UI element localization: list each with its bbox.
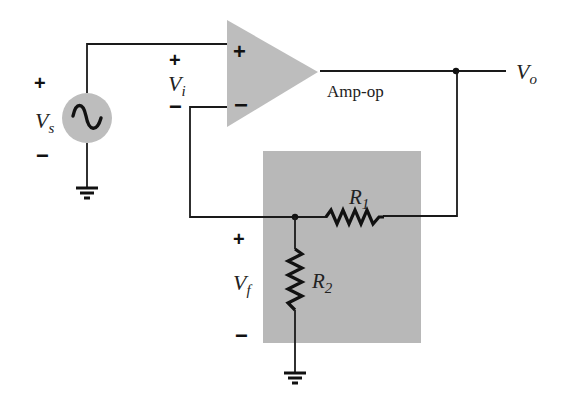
ac-source — [62, 93, 112, 143]
vs-label: Vs — [35, 108, 54, 136]
opamp-label: Amp-op — [327, 82, 384, 101]
feedback-network-box — [263, 151, 421, 343]
vf-minus: − — [235, 323, 248, 348]
vf-label: Vf — [233, 270, 252, 298]
vi-plus: + — [169, 49, 181, 71]
ground-icon — [284, 373, 306, 383]
vi-minus: − — [169, 94, 182, 119]
vf-plus: + — [233, 228, 245, 250]
opamp-inverting-sign: − — [234, 91, 248, 118]
wire-source-to-noninverting — [87, 44, 227, 93]
vs-minus: − — [36, 143, 49, 168]
output-junction — [453, 68, 459, 74]
ground-icon — [76, 188, 98, 198]
vs-plus: + — [34, 72, 46, 94]
circuit-diagram: + Vs − + Vi − + − Amp-op Vo R1 R2 + Vf − — [0, 0, 573, 414]
vo-label: Vo — [516, 59, 537, 87]
opamp-noninverting-sign: + — [233, 39, 246, 64]
